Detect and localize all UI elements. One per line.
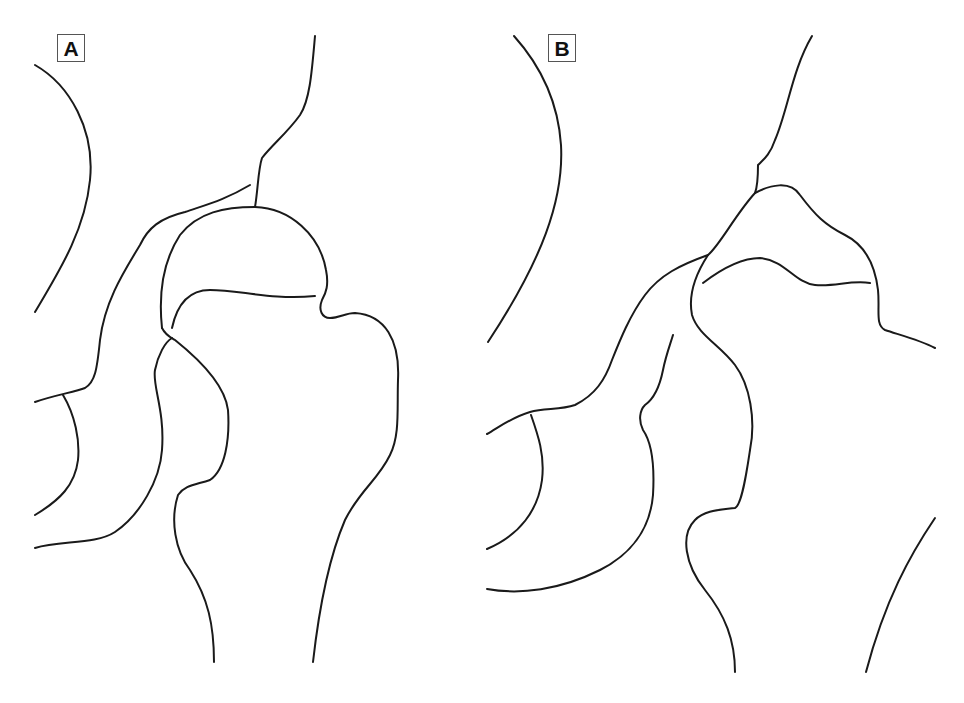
acetabular-roof-b <box>487 255 708 434</box>
hip-outline-a <box>0 0 480 703</box>
pelvis-curve-a <box>35 65 91 312</box>
pubis-contour-b <box>487 335 673 591</box>
panel-a: A <box>0 0 480 703</box>
pelvis-curve-b <box>488 36 561 342</box>
femoral-shaft-b <box>866 518 935 672</box>
pubis-contour-a <box>35 338 172 548</box>
femoral-head-left-b <box>686 193 755 672</box>
femoral-head-a <box>161 207 398 662</box>
hip-outline-b <box>480 0 964 703</box>
panel-label-b: B <box>548 34 576 62</box>
physis-line-a <box>172 290 315 328</box>
physis-line-b <box>703 258 870 285</box>
ilium-contour-b <box>755 36 812 193</box>
femoral-neck-a <box>162 328 228 662</box>
ischium-curve-a <box>35 395 78 515</box>
panel-label-a: A <box>57 34 85 62</box>
panel-b: B <box>480 0 964 703</box>
acetabular-roof-a <box>35 185 250 402</box>
ischium-curve-b <box>487 415 543 549</box>
ilium-contour-a <box>255 36 315 207</box>
